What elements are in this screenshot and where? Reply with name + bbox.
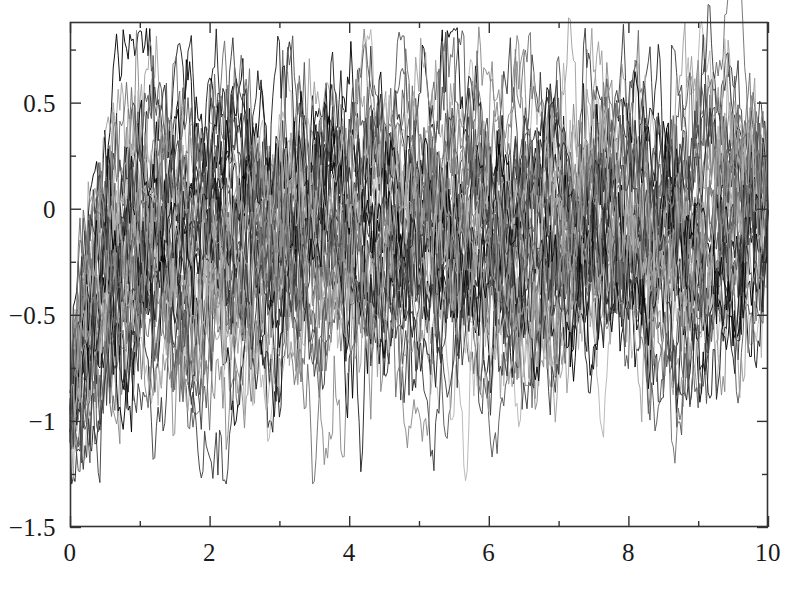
- x-tick-label: 8: [622, 540, 635, 565]
- figure-root: 0.50−0.5−1−1.5 0246810: [0, 0, 802, 590]
- line-chart-canvas: [0, 0, 802, 590]
- x-tick-label: 4: [343, 540, 356, 565]
- y-tick-label: 0.5: [0, 90, 56, 115]
- x-tick-label: 6: [482, 540, 495, 565]
- y-tick-label: −0.5: [0, 302, 56, 327]
- x-tick-label: 10: [755, 540, 781, 565]
- series-group: [70, 0, 768, 484]
- y-tick-label: −1.5: [0, 515, 56, 540]
- y-tick-label: 0: [0, 196, 56, 221]
- x-tick-label: 0: [64, 540, 77, 565]
- y-tick-label: −1: [0, 408, 56, 433]
- x-tick-label: 2: [203, 540, 216, 565]
